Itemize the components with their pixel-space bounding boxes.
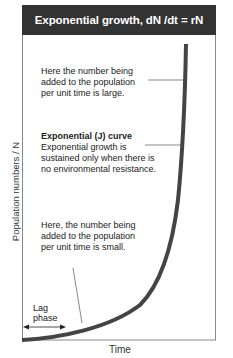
y-axis-label: Population numbers / N [10, 137, 21, 247]
arrow-right-icon [60, 325, 66, 330]
x-axis-label: Time [95, 344, 145, 355]
annotation-curve: Exponential (J) curve Exponential growth… [41, 131, 156, 175]
leader-line-small [73, 268, 82, 323]
lag-phase-label: Lag phase [33, 303, 58, 323]
annotation-large: Here the number being added to the popul… [41, 66, 135, 99]
arrow-left-icon [23, 325, 29, 330]
annotation-small: Here, the number being added to the popu… [41, 220, 136, 253]
